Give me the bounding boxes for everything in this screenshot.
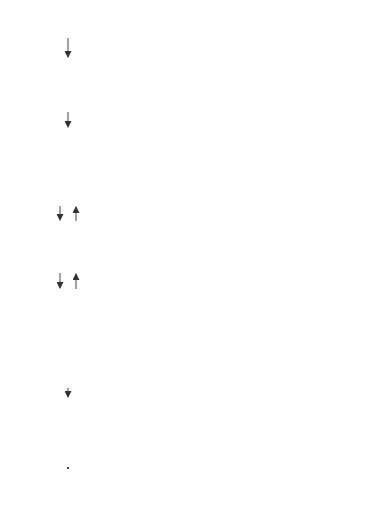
connector-layer: [0, 0, 392, 510]
